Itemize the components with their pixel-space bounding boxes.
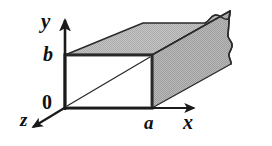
width-tick-label-a: a: [144, 113, 154, 132]
origin-label-zero: 0: [42, 92, 52, 112]
x-axis-label: x: [183, 112, 193, 132]
waveguide-figure: y b 0 z a x: [0, 0, 272, 146]
z-axis-label: z: [20, 110, 27, 129]
waveguide-opening: [65, 55, 152, 108]
height-tick-label-b: b: [43, 44, 53, 64]
y-axis-label: y: [41, 11, 50, 32]
